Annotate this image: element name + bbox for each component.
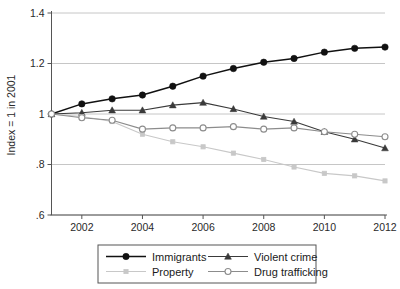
legend-marker bbox=[225, 269, 231, 275]
legend-label: Drug trafficking bbox=[254, 266, 328, 278]
y-tick-label: 1.4 bbox=[30, 7, 45, 19]
y-tick-label: .6 bbox=[36, 209, 45, 221]
legend-marker bbox=[123, 253, 129, 259]
y-tick-label: 1.2 bbox=[30, 57, 45, 69]
x-tick-label: 2006 bbox=[191, 221, 215, 233]
line-chart: .6.811.21.4 200220042006200820102012 Ind… bbox=[0, 0, 400, 289]
y-tick-label: .8 bbox=[36, 158, 45, 170]
data-point bbox=[201, 145, 205, 149]
data-point bbox=[353, 174, 357, 178]
data-point bbox=[79, 115, 85, 121]
data-point bbox=[139, 92, 145, 98]
legend-marker bbox=[124, 269, 128, 273]
data-point bbox=[139, 126, 145, 132]
x-tick-label: 2002 bbox=[70, 221, 94, 233]
data-point bbox=[140, 132, 144, 136]
data-point bbox=[231, 151, 235, 155]
data-point bbox=[79, 101, 85, 107]
data-point bbox=[200, 125, 206, 131]
data-point bbox=[170, 125, 176, 131]
data-point bbox=[291, 125, 297, 131]
data-point bbox=[230, 124, 236, 130]
data-point bbox=[292, 165, 296, 169]
legend-label: Violent crime bbox=[254, 251, 317, 263]
x-tick-label: 2012 bbox=[373, 221, 397, 233]
y-axis-label: Index = 1 in 2001 bbox=[5, 74, 17, 155]
data-point bbox=[170, 83, 176, 89]
data-point bbox=[230, 65, 236, 71]
chart-figure: .6.811.21.4 200220042006200820102012 Ind… bbox=[0, 0, 400, 289]
data-point bbox=[383, 179, 387, 183]
data-point bbox=[109, 96, 115, 102]
x-tick-label: 2004 bbox=[131, 221, 155, 233]
data-point bbox=[322, 171, 326, 175]
data-point bbox=[109, 117, 115, 123]
data-point bbox=[321, 49, 327, 55]
y-tick-label: 1 bbox=[39, 108, 45, 120]
legend-label: Immigrants bbox=[152, 251, 207, 263]
data-point bbox=[262, 157, 266, 161]
legend-label: Property bbox=[152, 266, 194, 278]
data-point bbox=[382, 44, 388, 50]
data-point bbox=[351, 45, 357, 51]
data-point bbox=[352, 131, 358, 137]
data-point bbox=[171, 140, 175, 144]
chart-legend: ImmigrantsViolent crimePropertyDrug traf… bbox=[98, 245, 328, 283]
data-point bbox=[291, 55, 297, 61]
data-point bbox=[261, 126, 267, 132]
data-point bbox=[200, 73, 206, 79]
data-point bbox=[49, 111, 55, 117]
data-point bbox=[321, 129, 327, 135]
x-tick-label: 2008 bbox=[252, 221, 276, 233]
x-tick-label: 2010 bbox=[313, 221, 337, 233]
data-point bbox=[382, 134, 388, 140]
data-point bbox=[261, 59, 267, 65]
